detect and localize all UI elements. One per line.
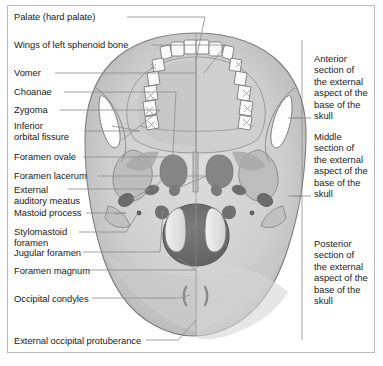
label-mastoid-process: Mastoid process <box>14 207 82 218</box>
label-wings-of-left-sphenoid-bone: Wings of left sphenoid bone <box>14 39 128 50</box>
label-choanae: Choanae <box>14 86 52 97</box>
label-foramen-magnum: Foramen magnum <box>14 265 90 276</box>
label-stylomastoid-foramen: Stylomastoid foramen <box>14 226 67 249</box>
label-vomer: Vomer <box>14 67 41 78</box>
section-label-posterior: Posterior section of the external aspect… <box>314 238 376 306</box>
label-external-occipital-protuberance: External occipital protuberance <box>14 335 141 346</box>
label-occipital-condyles: Occipital condyles <box>14 293 89 304</box>
label-zygoma: Zygoma <box>14 104 48 115</box>
label-foramen-ovale: Foramen ovale <box>14 151 76 162</box>
choanae <box>160 152 233 192</box>
label-palate: Palate (hard palate) <box>14 11 95 22</box>
section-label-anterior: Anterior section of the external aspect … <box>314 53 376 121</box>
label-external-auditory-meatus: External auditory meatus <box>14 184 80 207</box>
label-inferior-orbital-fissure: Inferior orbital fissure <box>14 120 69 143</box>
skull-base-figure: Palate (hard palate) Wings of left sphen… <box>0 0 383 366</box>
label-foramen-lacerum: Foramen lacerum <box>14 170 87 181</box>
section-label-middle: Middle section of the external aspect of… <box>314 131 376 199</box>
label-jugular-foramen: Jugular foramen <box>14 247 81 258</box>
